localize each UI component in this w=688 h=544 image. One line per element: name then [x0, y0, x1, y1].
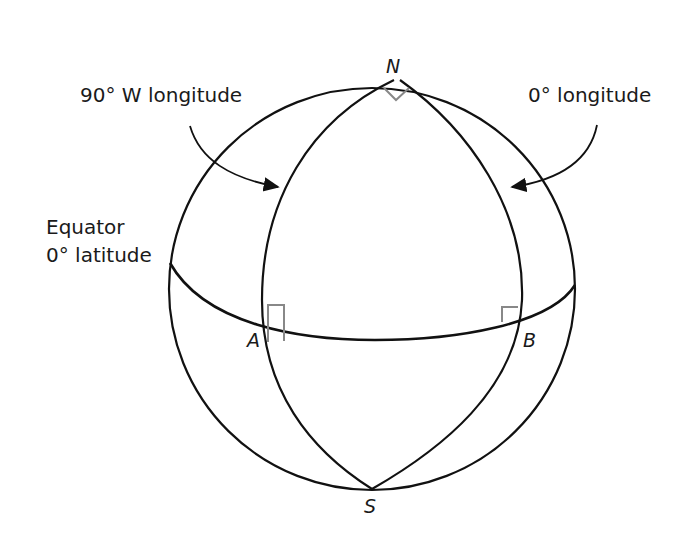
- label-point-b: B: [523, 330, 536, 352]
- label-90w-longitude: 90° W longitude: [80, 84, 242, 107]
- meridian-90w: [262, 80, 394, 489]
- equator-line: [170, 263, 575, 340]
- label-equator: Equator: [46, 216, 125, 239]
- right-angle-marker-a: [268, 305, 284, 342]
- sphere-outline: [169, 88, 575, 490]
- meridian-0: [372, 80, 522, 489]
- right-angle-marker-b: [502, 307, 518, 322]
- label-0-latitude: 0° latitude: [46, 244, 152, 267]
- label-0-longitude: 0° longitude: [528, 84, 651, 107]
- label-south: S: [364, 496, 376, 518]
- label-point-a: A: [247, 330, 260, 352]
- label-north: N: [386, 56, 400, 78]
- sphere-diagram: [0, 0, 688, 544]
